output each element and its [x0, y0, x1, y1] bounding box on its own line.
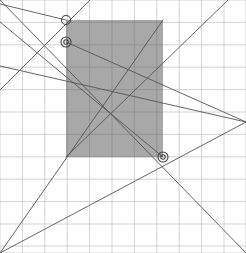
- diagram-canvas: [0, 0, 246, 253]
- geometric-figure: [0, 0, 246, 253]
